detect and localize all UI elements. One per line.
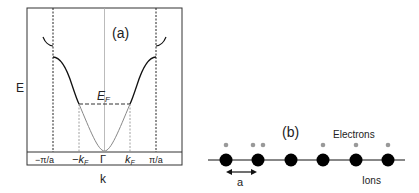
band-left: [53, 57, 79, 104]
electron-dot: [224, 143, 229, 148]
electron-dot: [261, 143, 266, 148]
diagram-canvas: (a) E k EF −π/a −kF Γ kF π/a (b) Electro…: [0, 0, 419, 193]
tick-minus-kf: −kF: [72, 153, 89, 166]
electrons-label: Electrons: [333, 129, 375, 140]
panel-b-lattice: (b) Electrons Ions a: [208, 124, 405, 188]
electron-dot: [251, 143, 256, 148]
y-axis-label: E: [16, 81, 24, 95]
electron-dot: [354, 143, 359, 148]
panel-a-label: (a): [112, 25, 129, 41]
panel-a-band-structure: (a) E k EF −π/a −kF Γ kF π/a: [16, 8, 182, 186]
ion-dot: [220, 154, 233, 167]
x-axis-label: k: [100, 172, 107, 186]
ion-dot: [317, 154, 330, 167]
panel-b-label: (b): [282, 124, 299, 140]
tick-minus-pi-over-a: −π/a: [35, 155, 54, 165]
upper-band-right: [156, 37, 166, 46]
ion-dot: [350, 154, 363, 167]
ion-dot: [285, 154, 298, 167]
ions-label: Ions: [362, 175, 381, 186]
ion-dot: [382, 154, 395, 167]
band-right: [130, 57, 156, 104]
lattice-spacing-label: a: [237, 176, 244, 188]
ion-dot: [252, 154, 265, 167]
tick-pi-over-a: π/a: [149, 155, 163, 165]
fermi-energy-label: EF: [97, 89, 111, 104]
electron-dot: [321, 143, 326, 148]
tick-kf: kF: [125, 153, 136, 166]
electron-dot: [386, 143, 391, 148]
tick-gamma: Γ: [100, 153, 106, 165]
upper-band-left: [43, 37, 53, 46]
double-arrow-icon: [226, 169, 257, 175]
